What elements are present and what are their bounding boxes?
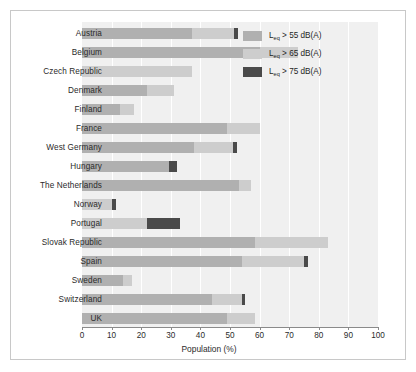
x-axis-tick-label: 10 (97, 331, 127, 340)
bar-row (82, 218, 378, 229)
legend-label: Leq > 75 dB(A) (269, 66, 321, 80)
bar-row (82, 199, 378, 210)
y-axis-label: UK (0, 314, 102, 323)
x-axis-tick (348, 327, 349, 330)
bar-row (82, 104, 378, 115)
bar-segment (147, 85, 174, 96)
bar-segment (239, 180, 251, 191)
legend-swatch (243, 67, 262, 77)
legend-item: Leq > 65 dB(A) (243, 48, 363, 63)
bar-segment (82, 237, 255, 248)
x-axis-tick (289, 327, 290, 330)
legend-swatch (243, 49, 262, 59)
gridline (378, 22, 379, 327)
x-axis-tick (260, 327, 261, 330)
y-axis-label: Finland (0, 105, 102, 114)
y-axis-label: France (0, 124, 102, 133)
y-axis-label: The Netherlands (0, 181, 102, 190)
x-axis-tick-label: 60 (245, 331, 275, 340)
x-axis-tick (171, 327, 172, 330)
bar-row (82, 161, 378, 172)
bar-segment (120, 104, 133, 115)
bar-segment (212, 294, 242, 305)
x-axis-tick (230, 327, 231, 330)
x-axis-tick-label: 20 (126, 331, 156, 340)
x-axis-tick-label: 30 (156, 331, 186, 340)
bar-segment (234, 28, 238, 39)
bar-segment (82, 180, 239, 191)
x-axis-tick (82, 327, 83, 330)
x-axis-tick (112, 327, 113, 330)
bar-segment (242, 256, 304, 267)
bar-segment (82, 47, 260, 58)
bar-segment (82, 256, 242, 267)
bar-segment (169, 161, 176, 172)
y-axis-label: Hungary (0, 162, 102, 171)
x-axis-tick (141, 327, 142, 330)
x-axis-title: Population (%) (11, 344, 407, 354)
x-axis-tick (378, 327, 379, 330)
x-axis-tick-label: 80 (304, 331, 334, 340)
bar-row (82, 142, 378, 153)
bar-segment (82, 313, 227, 324)
bar-row (82, 256, 378, 267)
legend-item: Leq > 55 dB(A) (243, 30, 363, 45)
bar-segment (112, 199, 116, 210)
bar-segment (233, 142, 237, 153)
bar-segment (255, 237, 328, 248)
legend-label: Leq > 65 dB(A) (269, 48, 321, 62)
y-axis-label: Austria (0, 29, 102, 38)
x-axis-tick-label: 40 (185, 331, 215, 340)
y-axis-label: Norway (0, 200, 102, 209)
bar-row (82, 237, 378, 248)
bar-segment (242, 294, 246, 305)
y-axis-label: Switzerland (0, 295, 102, 304)
x-axis-tick (319, 327, 320, 330)
bar-row (82, 294, 378, 305)
bar-segment (192, 28, 235, 39)
legend-label: Leq > 55 dB(A) (269, 30, 321, 44)
bar-segment (147, 218, 180, 229)
y-axis-label: Czech Republic (0, 67, 102, 76)
x-axis-tick (200, 327, 201, 330)
bar-segment (194, 142, 232, 153)
x-axis-tick-label: 90 (333, 331, 363, 340)
bar-row (82, 180, 378, 191)
bar-row (82, 275, 378, 286)
legend-swatch (243, 31, 262, 41)
y-axis-label: Denmark (0, 86, 102, 95)
x-axis-tick-label: 70 (274, 331, 304, 340)
y-axis-label: Slovak Republic (0, 238, 102, 247)
bar-segment (304, 256, 308, 267)
bar-segment (227, 123, 260, 134)
legend-item: Leq > 75 dB(A) (243, 66, 363, 81)
y-axis-label: West Germany (0, 143, 102, 152)
bar-segment (123, 275, 132, 286)
x-axis-tick-label: 0 (67, 331, 97, 340)
bar-row (82, 123, 378, 134)
chart-figure: Population (%) Leq > 55 dB(A)Leq > 65 dB… (10, 10, 406, 360)
bar-segment (227, 313, 255, 324)
y-axis-label: Belgium (0, 48, 102, 57)
bar-segment (82, 123, 227, 134)
y-axis-label: Portugal (0, 219, 102, 228)
bar-row (82, 313, 378, 324)
chart-legend: Leq > 55 dB(A)Leq > 65 dB(A)Leq > 75 dB(… (243, 30, 363, 84)
bar-row (82, 85, 378, 96)
x-axis-tick-label: 50 (215, 331, 245, 340)
y-axis-label: Spain (0, 257, 102, 266)
y-axis-label: Sweden (0, 276, 102, 285)
x-axis-tick-label: 100 (363, 331, 393, 340)
